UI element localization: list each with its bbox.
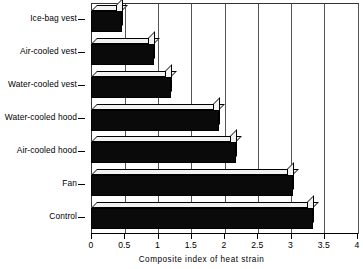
bar-front-face — [91, 110, 219, 131]
x-axis-tick — [291, 234, 292, 239]
bar — [91, 136, 244, 165]
x-axis-tick-label: 1 — [155, 240, 160, 250]
x-axis-tick-label: 3 — [288, 240, 293, 250]
bars-layer — [91, 3, 358, 233]
category-label: Fan — [62, 179, 77, 188]
x-axis-tick — [158, 234, 159, 239]
x-axis-tick-label: 0.5 — [118, 240, 130, 250]
category-label: Water-cooled hood — [5, 113, 77, 122]
category-label: Ice-bag vest — [30, 14, 77, 23]
bar-front-face — [91, 44, 154, 65]
x-axis-tick — [224, 234, 225, 239]
category-label: Control — [49, 212, 77, 221]
bar — [91, 202, 321, 231]
category-label: Water-cooled vest — [8, 80, 77, 89]
x-axis-tick — [257, 234, 258, 239]
bar-front-face — [91, 142, 236, 163]
x-axis-tick — [357, 234, 358, 239]
category-tick — [78, 184, 85, 185]
category-tick — [78, 217, 85, 218]
x-axis-tick — [124, 234, 125, 239]
bar — [91, 71, 179, 100]
bar — [91, 5, 130, 34]
bar-front-face — [91, 175, 293, 196]
category-tick — [78, 19, 85, 20]
x-axis-tick-label: 4 — [355, 240, 360, 250]
bar-front-face — [91, 208, 313, 229]
category-label: Air-cooled hood — [17, 146, 77, 155]
bar — [91, 169, 301, 198]
x-axis-tick-label: 0 — [89, 240, 94, 250]
x-axis-tick-label: 3.5 — [318, 240, 330, 250]
category-tick — [78, 151, 85, 152]
x-axis-tick-label: 2.5 — [251, 240, 263, 250]
bar-front-face — [91, 77, 171, 98]
bar — [91, 38, 162, 67]
category-axis-labels: Ice-bag vestAir-cooled vestWater-cooled … — [0, 3, 86, 233]
bar-front-face — [91, 11, 122, 32]
category-tick — [78, 52, 85, 53]
x-axis-tick — [91, 234, 92, 239]
x-axis-title: Composite index of heat strain — [0, 255, 363, 264]
x-axis-tick — [324, 234, 325, 239]
x-axis-tick — [191, 234, 192, 239]
x-axis-tick-label: 1.5 — [185, 240, 197, 250]
x-axis-tick-label: 2 — [222, 240, 227, 250]
bar-chart: Ice-bag vestAir-cooled vestWater-cooled … — [0, 0, 363, 269]
category-label: Air-cooled vest — [20, 47, 77, 56]
bar — [91, 104, 227, 133]
category-tick — [78, 118, 85, 119]
category-tick — [78, 85, 85, 86]
